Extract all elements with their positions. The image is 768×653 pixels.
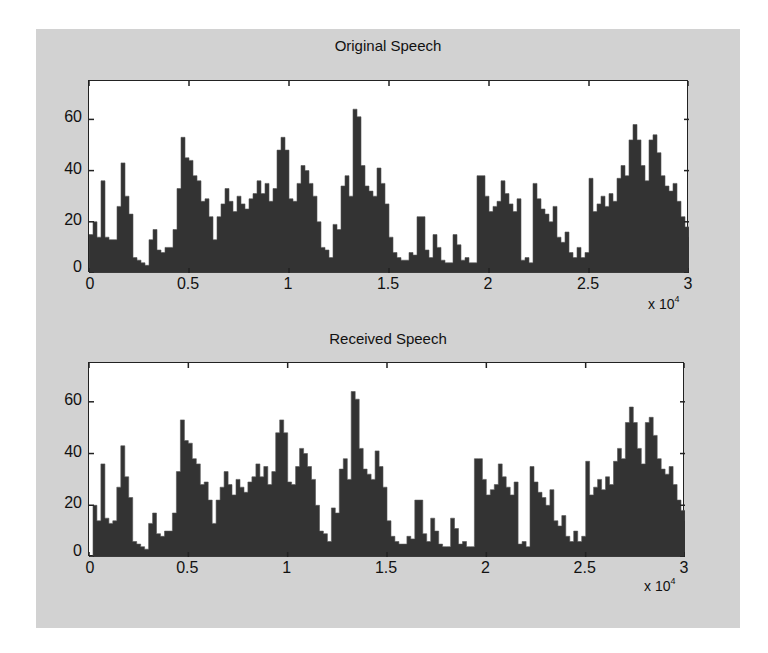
xtick-label: 1.5 <box>366 559 406 577</box>
axes-original-speech <box>88 80 688 272</box>
histogram-bars <box>89 392 685 558</box>
x-exponent-label-received: x 104 <box>644 576 675 594</box>
x-multiplier: x 10 <box>648 296 674 312</box>
ytick-label: 40 <box>52 160 82 178</box>
plot-title-original: Original Speech <box>88 37 688 54</box>
figure: Original Speech x 104 Received Speech x … <box>36 29 740 628</box>
xtick-label: 3 <box>664 559 704 577</box>
xtick-label: 0 <box>70 559 110 577</box>
xtick-label: 2.5 <box>565 559 605 577</box>
ytick-label: 0 <box>52 542 82 560</box>
histogram-bars <box>89 109 689 273</box>
x-exponent-label-original: x 104 <box>648 294 679 312</box>
x-exponent: 4 <box>674 294 679 304</box>
ytick-label: 40 <box>52 443 82 461</box>
ytick-label: 60 <box>52 108 82 126</box>
axes-received-speech <box>88 362 684 556</box>
xtick-label: 2 <box>468 275 508 293</box>
x-multiplier: x 10 <box>644 578 670 594</box>
xtick-label: 1.5 <box>368 275 408 293</box>
histogram-original <box>89 81 689 273</box>
xtick-label: 3 <box>668 275 708 293</box>
ytick-label: 20 <box>52 211 82 229</box>
xtick-label: 1 <box>267 559 307 577</box>
xtick-label: 2 <box>465 559 505 577</box>
histogram-received <box>89 363 685 557</box>
ytick-label: 60 <box>52 391 82 409</box>
xtick-label: 0.5 <box>167 559 207 577</box>
ytick-label: 20 <box>52 494 82 512</box>
plot-title-received: Received Speech <box>88 330 688 347</box>
xtick-label: 0.5 <box>168 275 208 293</box>
xtick-label: 0 <box>70 275 110 293</box>
x-exponent: 4 <box>670 576 675 586</box>
xtick-label: 1 <box>268 275 308 293</box>
ytick-label: 0 <box>52 258 82 276</box>
xtick-label: 2.5 <box>568 275 608 293</box>
